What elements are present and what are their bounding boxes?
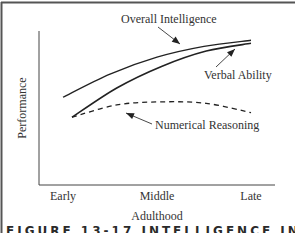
- x-tick-label-early: Early: [50, 189, 76, 203]
- y-axis-label: Performance: [15, 77, 29, 138]
- figure-caption: FIGURE 13-17 INTELLIGENCE IN: [6, 224, 295, 233]
- arrow-verbal-ability: [216, 49, 235, 67]
- annotation-overall-intelligence: Overall Intelligence: [121, 12, 217, 26]
- chart-svg: Early Middle Late Adulthood Performance …: [0, 0, 295, 233]
- annotation-numerical-reasoning: Numerical Reasoning: [155, 118, 259, 132]
- x-axis-label: Adulthood: [131, 209, 182, 223]
- arrow-numerical-reasoning: [126, 113, 152, 124]
- series-line-numerical-reasoning: [72, 102, 251, 118]
- arrow-overall-intelligence: [158, 27, 180, 44]
- x-tick-label-late: Late: [240, 189, 261, 203]
- x-tick-label-middle: Middle: [140, 189, 175, 203]
- annotation-verbal-ability: Verbal Ability: [204, 68, 272, 82]
